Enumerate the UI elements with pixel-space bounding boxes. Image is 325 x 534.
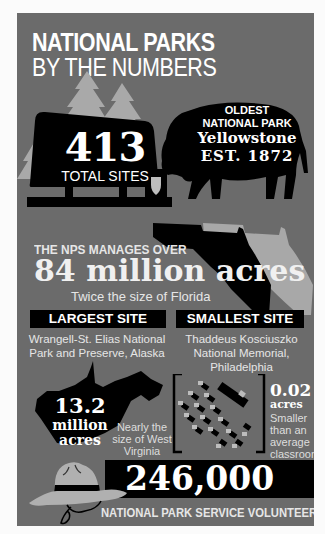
smallest-site-value: 0.02 xyxy=(270,380,311,400)
smallest-site-header: SMALLEST SITE xyxy=(176,310,304,328)
national-park-label: NATIONAL PARK xyxy=(187,117,307,129)
smallest-site-comparison: Smaller than an average classroom xyxy=(270,412,314,460)
total-sites-value: 413 xyxy=(49,123,161,170)
largest-site-header: LARGEST SITE xyxy=(30,310,166,328)
acreage-comparison: Twice the size of Florida xyxy=(71,289,210,304)
largest-site-value: 13.2 xyxy=(45,393,115,418)
largest-site-comparison: Nearly the size of West Virginia xyxy=(112,421,172,457)
smallest-site-unit: acres xyxy=(270,398,303,411)
acreage-value: 84 million acres xyxy=(34,253,305,288)
volunteers-value: 246,000 xyxy=(125,460,274,498)
oldest-label: OLDEST xyxy=(187,104,307,116)
volunteers-label: NATIONAL PARK SERVICE VOLUNTEERS xyxy=(101,506,314,520)
largest-site-unit-line-2: acres xyxy=(45,432,115,448)
total-sites-label: TOTAL SITES xyxy=(49,168,161,184)
largest-site-name: Wrangell-St. Elias National Park and Pre… xyxy=(22,332,172,360)
classroom-desks-icon xyxy=(172,374,267,454)
infographic-panel: NATIONAL PARKS BY THE NUMBERS 413 TOTAL … xyxy=(17,13,314,526)
oldest-park-established: EST. 1872 xyxy=(172,147,314,165)
oldest-park-name: Yellowstone xyxy=(172,129,314,147)
largest-site-unit-line-1: million xyxy=(45,417,115,433)
smallest-site-name: Thaddeus Kosciuszko National Memorial, P… xyxy=(169,332,314,374)
